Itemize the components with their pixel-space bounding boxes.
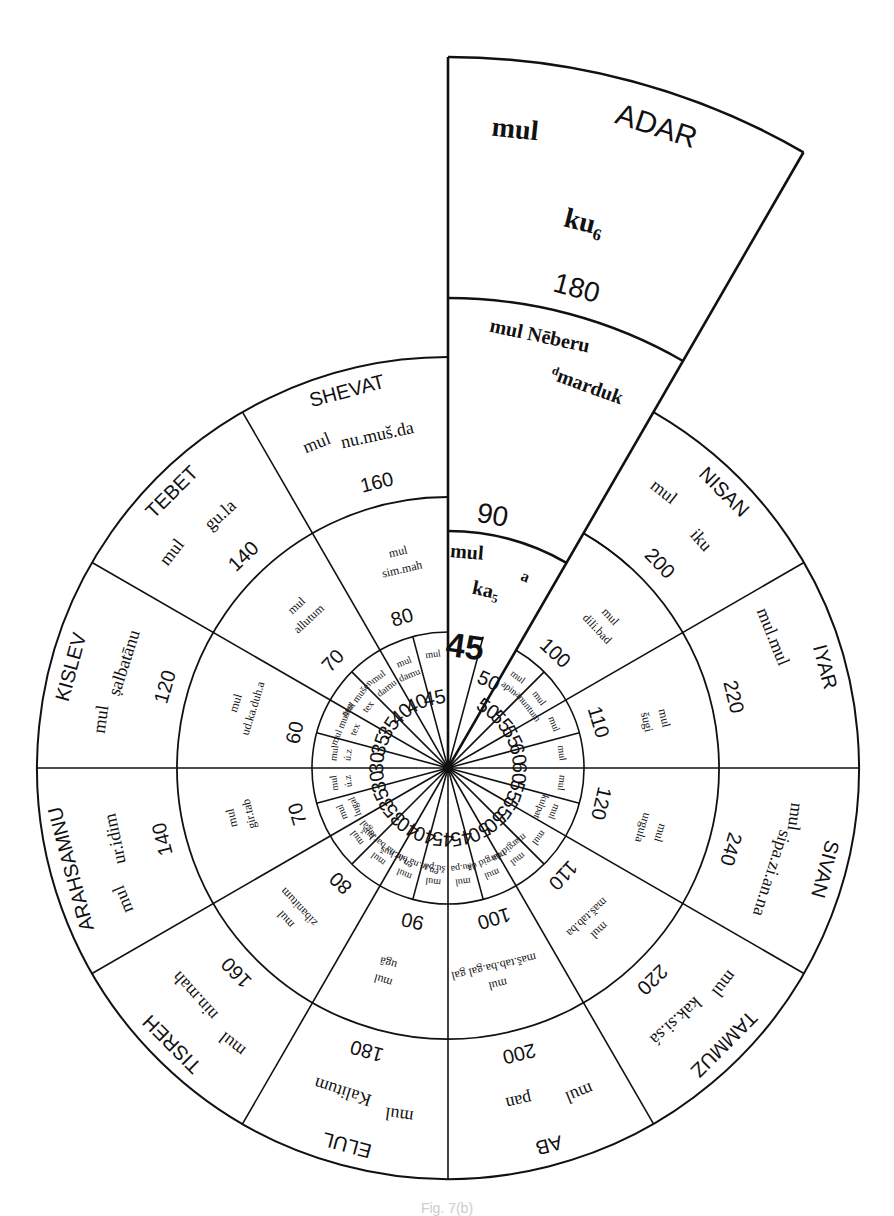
outer-star-elul: Kalitum <box>312 1074 374 1111</box>
outer-star-kislev: ṣalbatānu <box>104 627 144 698</box>
middle-star-shevat: sim.mah <box>381 558 424 581</box>
adar-neberu-label: mul Nēberu <box>488 314 592 357</box>
middle-mul-arahsamnu: mul <box>222 807 240 829</box>
outer-star-nisan: iku <box>686 525 716 555</box>
inner-mul-iyar-1: mul <box>546 715 562 734</box>
inner-mul-iyar-2: mul <box>556 745 569 762</box>
outer-value-ab: 200 <box>500 1039 538 1068</box>
adar-value: 180 <box>550 267 603 309</box>
inner-star-ab-2: šu.pa <box>450 862 473 876</box>
outer-mul-shevat: mul <box>300 428 333 457</box>
outer-mul-tammuz: mul <box>708 967 741 1001</box>
inner-mul-shevat-2: mul <box>425 647 442 660</box>
inner-mul-arahsamnu-2: mul <box>327 774 340 791</box>
middle-mul-elul: mul <box>371 971 394 990</box>
adar-inner-mul: mul <box>449 539 485 564</box>
inner-star-tebet-1: tex <box>360 698 376 714</box>
middle-value-shevat: 80 <box>388 603 416 631</box>
middle-value-ab: 100 <box>475 903 513 934</box>
nisan-middle-arc-stub <box>584 533 630 566</box>
month-name-elul: ELUL <box>320 1128 374 1162</box>
outer-value-tammuz: 220 <box>633 960 672 999</box>
outer-star-sivan: sipa.zi.an.na <box>749 828 796 919</box>
outer-mul-nisan: mul <box>647 475 681 508</box>
middle-value-sivan: 120 <box>587 785 616 822</box>
figure-caption: Fig. 7(b) <box>0 1200 894 1216</box>
adar-inner-star: ka₅ <box>470 576 501 603</box>
middle-star-arahsamnu: gir.tab <box>239 798 259 831</box>
month-name-tammuz: TAMMUZ <box>687 1007 762 1082</box>
outer-mul-iyar: mul.mul <box>753 605 794 669</box>
month-name-ab: AB <box>533 1131 564 1159</box>
outer-value-tisreh: 160 <box>216 953 255 992</box>
month-name-tisreh: TISREH <box>138 1011 205 1078</box>
inner-mul-tammuz-1: mul <box>530 829 548 848</box>
outer-value-kislev: 120 <box>150 668 180 706</box>
middle-mul-kislev: mul <box>226 691 245 714</box>
outer-value-arahsamnu: 140 <box>147 820 176 858</box>
outer-star-tisreh: nin.mah <box>168 968 222 1025</box>
inner-star-kislev-1: ú.z <box>341 748 354 762</box>
month-name-adar: ADAR <box>612 97 701 154</box>
outer-value-nisan: 200 <box>640 544 679 583</box>
inner-mul-kislev-1: mul <box>327 744 340 761</box>
middle-star-sivan: urgula <box>632 811 654 845</box>
inner-mul-ab-2: mul <box>454 876 471 889</box>
month-name-shevat: SHEVAT <box>307 370 387 411</box>
outer-mul-ab: mul <box>563 1079 596 1108</box>
inner-mul-sivan-1: mul <box>556 775 569 792</box>
adar-marduk-label: ᵈmarduk <box>548 362 627 409</box>
month-name-iyar: IYAR <box>809 642 842 691</box>
outer-mul-tebet: mul <box>155 535 188 569</box>
adar-star-name: ku₆ <box>561 202 607 242</box>
adar-inner-50: 50 <box>474 666 503 695</box>
month-name-nisan: NISAN <box>695 462 754 521</box>
inner-value-shevat-2: 45 <box>421 685 447 711</box>
middle-star-kislev: ud.ka.duh.a <box>238 679 268 737</box>
outer-mul-sivan: mul <box>784 802 808 833</box>
sector-labels: ADARmulku₆180mul Nēberuᵈmarduk90mulka₅45… <box>43 97 843 1163</box>
adar-value-90: 90 <box>475 497 511 533</box>
middle-value-nisan: 100 <box>536 633 575 672</box>
outer-value-elul: 180 <box>348 1036 386 1066</box>
adar-inner-45: 45 <box>444 625 487 668</box>
outer-value-tebet: 140 <box>224 536 263 575</box>
adar-mul-label: mul <box>490 111 540 147</box>
outer-mul-kislev: mul <box>89 704 113 735</box>
outer-star-arahsamnu: ur.idim <box>99 812 129 867</box>
middle-value-arahsamnu: 70 <box>283 800 311 828</box>
inner-star-kislev-2: tex <box>347 722 362 737</box>
center-hub <box>443 763 453 773</box>
month-name-arahsamnu: ARAHSAMNU <box>43 805 97 934</box>
middle-star-elul: ugā <box>377 954 398 973</box>
middle-value-iyar: 110 <box>584 703 614 740</box>
month-name-sivan: SIVAN <box>807 838 843 900</box>
middle-value-kislev: 60 <box>281 719 307 746</box>
month-name-tebet: TEBET <box>141 461 202 522</box>
outer-star-ab: pan <box>504 1089 534 1114</box>
outer-star-tammuz: kak.si.sá <box>646 993 705 1049</box>
middle-mul-sivan: mul <box>651 822 670 845</box>
inner-star-arahsamnu-2: ú.z <box>341 774 354 788</box>
outer-value-iyar: 220 <box>719 678 748 716</box>
adar-inner-a: a <box>519 567 533 586</box>
middle-value-tisreh: 80 <box>325 868 356 899</box>
middle-mul-shevat: mul <box>387 542 409 560</box>
outer-mul-arahsamnu: mul <box>108 883 137 916</box>
middle-value-tammuz: 110 <box>544 856 582 894</box>
middle-star-iyar: šugi <box>638 711 656 734</box>
outer-mul-elul: mul <box>384 1104 415 1128</box>
outer-value-sivan: 240 <box>716 830 746 868</box>
sector-dividers <box>37 57 859 1179</box>
outer-star-tebet: gu.la <box>200 495 240 534</box>
outer-star-shevat: nu.muš.da <box>339 417 416 452</box>
middle-mul-iyar: mul <box>656 707 674 729</box>
middle-value-tebet: 70 <box>317 645 348 676</box>
middle-mul-ab: mul <box>487 976 509 994</box>
middle-value-elul: 90 <box>399 908 426 934</box>
outer-value-shevat: 160 <box>358 467 396 496</box>
outer-mul-tisreh: mul <box>215 1028 249 1061</box>
